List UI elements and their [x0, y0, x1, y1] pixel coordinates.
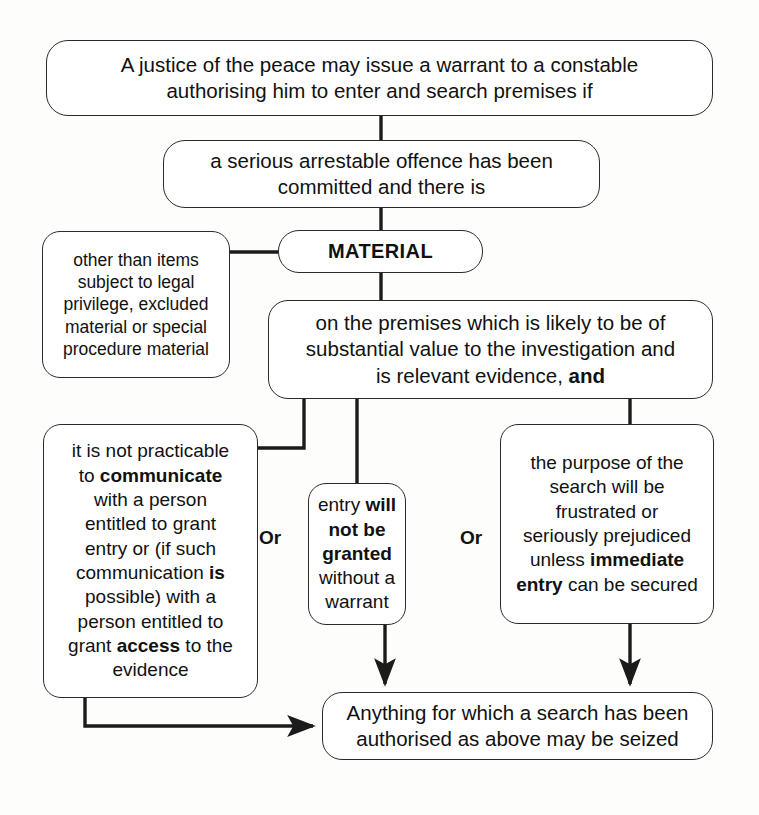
- node-entry-not-granted-text: entry will not be granted without a warr…: [309, 493, 405, 615]
- node-purpose-frustrated: the purpose of the search will be frustr…: [500, 424, 714, 624]
- node-premises: on the premises which is likely to be of…: [268, 300, 713, 399]
- node-entry-not-granted: entry will not be granted without a warr…: [308, 483, 406, 625]
- flowchart-canvas: A justice of the peace may issue a warra…: [0, 0, 759, 815]
- node-material: MATERIAL: [278, 230, 483, 273]
- node-purpose-frustrated-text: the purpose of the search will be frustr…: [501, 451, 713, 597]
- node-offence: a serious arrestable offence has been co…: [163, 140, 600, 208]
- connector-premises-to-practicable: [258, 399, 304, 448]
- practicable-bold-access: access: [117, 635, 180, 656]
- entry-bold-granted: granted: [322, 543, 392, 564]
- practicable-bold-communicate: communicate: [100, 465, 222, 486]
- node-not-practicable: it is not practicable to communicate wit…: [43, 424, 258, 698]
- node-offence-text: a serious arrestable offence has been co…: [164, 148, 599, 200]
- entry-bold-not-be: not be: [329, 519, 386, 540]
- entry-bold-will: will: [365, 494, 396, 515]
- purpose-bold-immediate: immediate: [590, 549, 684, 570]
- or-label-right: Or: [449, 527, 493, 549]
- node-not-practicable-text: it is not practicable to communicate wit…: [44, 439, 257, 682]
- premises-bold-and: and: [569, 364, 605, 387]
- node-material-text: MATERIAL: [279, 239, 482, 265]
- node-other-than-items-text: other than items subject to legal privil…: [43, 249, 229, 361]
- purpose-bold-entry: entry: [516, 574, 562, 595]
- node-warrant-text: A justice of the peace may issue a warra…: [47, 52, 712, 104]
- node-warrant: A justice of the peace may issue a warra…: [46, 40, 713, 116]
- node-seized-text: Anything for which a search has been aut…: [323, 700, 712, 752]
- or-label-left: Or: [248, 527, 292, 549]
- node-seized: Anything for which a search has been aut…: [322, 692, 713, 760]
- connector-practicable-to-seized: [85, 698, 313, 726]
- practicable-bold-is: is: [209, 562, 225, 583]
- node-other-than-items: other than items subject to legal privil…: [42, 231, 230, 378]
- node-premises-text: on the premises which is likely to be of…: [269, 310, 712, 389]
